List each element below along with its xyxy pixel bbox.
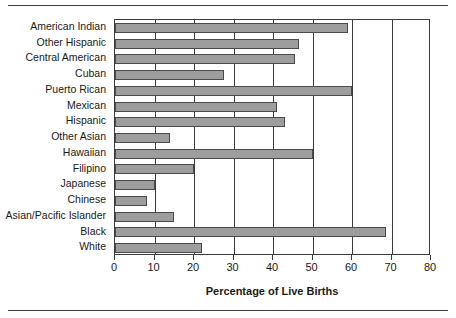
tickmark-50 bbox=[312, 255, 313, 260]
bar bbox=[115, 54, 295, 64]
y-axis-label-central-american: Central American bbox=[25, 50, 106, 66]
bar-row bbox=[115, 209, 429, 225]
y-axis-label-other-asian: Other Asian bbox=[51, 129, 106, 145]
x-axis-tick-label-80: 80 bbox=[424, 261, 436, 273]
bar-row bbox=[115, 99, 429, 115]
y-axis-label-white: White bbox=[79, 239, 106, 255]
bar bbox=[115, 70, 224, 80]
tickmark-20 bbox=[193, 255, 194, 260]
bar-row bbox=[115, 130, 429, 146]
bar bbox=[115, 196, 147, 206]
x-axis-tick-label-40: 40 bbox=[266, 261, 278, 273]
bar bbox=[115, 39, 299, 49]
y-axis-label-chinese: Chinese bbox=[67, 192, 106, 208]
y-axis-label-hispanic: Hispanic bbox=[66, 113, 106, 129]
bar-row bbox=[115, 51, 429, 67]
chart-figure: American IndianOther HispanicCentral Ame… bbox=[0, 0, 456, 318]
bar bbox=[115, 117, 285, 127]
x-axis-tick-label-0: 0 bbox=[111, 261, 117, 273]
bar-row bbox=[115, 177, 429, 193]
tickmark-60 bbox=[351, 255, 352, 260]
bar bbox=[115, 164, 194, 174]
y-axis-label-asian-pacific-islander: Asian/Pacific Islander bbox=[6, 208, 106, 224]
y-axis-label-hawaiian: Hawaiian bbox=[63, 145, 106, 161]
y-axis-label-mexican: Mexican bbox=[67, 98, 106, 114]
tickmark-10 bbox=[154, 255, 155, 260]
bar-row bbox=[115, 36, 429, 52]
x-axis-tick-label-70: 70 bbox=[384, 261, 396, 273]
y-axis-label-other-hispanic: Other Hispanic bbox=[37, 35, 106, 51]
bottom-rule bbox=[8, 310, 448, 311]
bar-row bbox=[115, 146, 429, 162]
tickmark-0 bbox=[114, 255, 115, 260]
bar-row bbox=[115, 225, 429, 241]
x-axis-tick-labels: 01020304050607080 bbox=[114, 261, 430, 277]
y-axis-label-puerto-rican: Puerto Rican bbox=[45, 82, 106, 98]
y-axis-label-black: Black bbox=[80, 224, 106, 240]
bar bbox=[115, 180, 155, 190]
bar bbox=[115, 149, 313, 159]
y-axis-label-filipino: Filipino bbox=[73, 161, 106, 177]
x-axis-tick-label-30: 30 bbox=[226, 261, 238, 273]
y-axis-label-american-indian: American Indian bbox=[30, 19, 106, 35]
x-axis-title: Percentage of Live Births bbox=[114, 285, 430, 297]
bar bbox=[115, 133, 170, 143]
x-axis-tick-label-50: 50 bbox=[305, 261, 317, 273]
x-axis-tick-label-60: 60 bbox=[345, 261, 357, 273]
tickmark-40 bbox=[272, 255, 273, 260]
x-axis-tick-label-10: 10 bbox=[147, 261, 159, 273]
bar bbox=[115, 86, 352, 96]
y-axis-label-cuban: Cuban bbox=[75, 66, 106, 82]
y-axis-category-labels: American IndianOther HispanicCentral Ame… bbox=[0, 19, 110, 255]
y-axis-label-japanese: Japanese bbox=[60, 176, 106, 192]
tickmark-70 bbox=[391, 255, 392, 260]
tickmark-80 bbox=[430, 255, 431, 260]
top-rule bbox=[8, 5, 448, 6]
bar-row bbox=[115, 240, 429, 256]
plot-area bbox=[114, 19, 430, 255]
bar-row bbox=[115, 162, 429, 178]
bar-row bbox=[115, 20, 429, 36]
x-axis-tick-label-20: 20 bbox=[187, 261, 199, 273]
bar bbox=[115, 23, 348, 33]
bar bbox=[115, 243, 202, 253]
bar-row bbox=[115, 67, 429, 83]
bar-row bbox=[115, 193, 429, 209]
bar-row bbox=[115, 114, 429, 130]
bar-row bbox=[115, 83, 429, 99]
bar bbox=[115, 212, 174, 222]
bar bbox=[115, 227, 386, 237]
bar bbox=[115, 102, 277, 112]
tickmark-30 bbox=[233, 255, 234, 260]
bar-series bbox=[115, 20, 429, 254]
